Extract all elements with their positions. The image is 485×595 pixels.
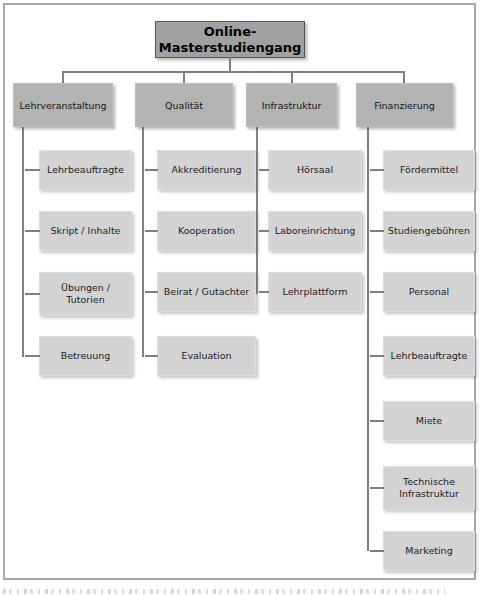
- child-box-akkreditierung: Akkreditierung: [157, 150, 256, 190]
- connector-stub-finanzierung: [403, 72, 405, 83]
- child-box-technische-infrastruktur: Technische Infrastruktur: [383, 466, 475, 510]
- child-box-skript-inhalte: Skript / Inhalte: [39, 211, 132, 251]
- branch-box-infrastruktur: Infrastruktur: [246, 83, 337, 127]
- child-box-studiengebuehren: Studiengebühren: [383, 211, 475, 251]
- connector-stub-lehrveranstaltung: [62, 72, 64, 83]
- child-box-hoersaal: Hörsaal: [268, 150, 362, 190]
- branch-box-finanzierung: Finanzierung: [356, 83, 453, 127]
- connector-bus: [62, 71, 405, 73]
- root-node-online-masterstudiengang: Online-Masterstudiengang: [155, 21, 305, 58]
- child-box-kooperation: Kooperation: [157, 211, 256, 251]
- child-box-foerdermittel: Fördermittel: [383, 150, 475, 190]
- child-box-laboreinrichtung: Laboreinrichtung: [268, 211, 362, 251]
- diagram-page: Online-Masterstudiengang Lehrveranstaltu…: [0, 0, 485, 595]
- child-box-miete: Miete: [383, 401, 475, 441]
- connector-stub-infrastruktur: [291, 72, 293, 83]
- connector-root-stem: [229, 57, 231, 72]
- connector-trunk-lehrveranstaltung: [22, 127, 24, 357]
- child-box-marketing: Marketing: [383, 531, 475, 571]
- branch-box-lehrveranstaltung: Lehrveranstaltung: [13, 83, 113, 127]
- child-box-lehrbeauftragte-1: Lehrbeauftragte: [39, 150, 132, 190]
- child-box-lehrplattform: Lehrplattform: [268, 272, 362, 312]
- branch-box-qualitaet: Qualität: [135, 83, 233, 127]
- connector-trunk-qualitaet: [142, 127, 144, 357]
- child-box-evaluation: Evaluation: [157, 336, 256, 376]
- connector-stub-qualitaet: [183, 72, 185, 83]
- child-box-uebungen-tutorien: Übungen / Tutorien: [39, 272, 132, 316]
- child-box-beirat-gutachter: Beirat / Gutachter: [157, 272, 256, 312]
- child-box-lehrbeauftragte-2: Lehrbeauftragte: [383, 336, 475, 376]
- connector-trunk-infrastruktur: [256, 127, 258, 294]
- connector-trunk-finanzierung: [367, 127, 369, 551]
- child-box-betreuung: Betreuung: [39, 336, 132, 376]
- cropped-caption-text: [3, 589, 445, 594]
- child-box-personal: Personal: [383, 272, 475, 312]
